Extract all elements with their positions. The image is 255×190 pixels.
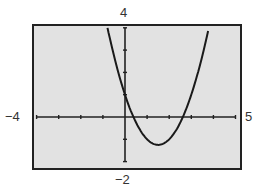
graph-screen-frame: [33, 25, 241, 169]
calculator-graph-screen: [0, 0, 255, 190]
